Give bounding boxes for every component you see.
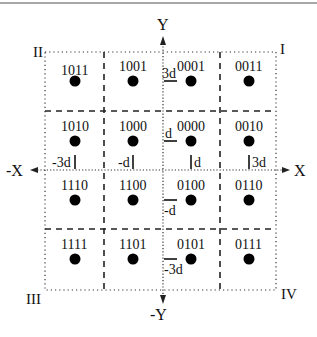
point-1000 xyxy=(128,136,139,147)
point-1110 xyxy=(70,195,81,206)
decision-boundaries xyxy=(45,52,276,290)
point-label: 1001 xyxy=(119,59,147,74)
y-tick-label-d: d xyxy=(165,126,172,141)
point-0111 xyxy=(244,254,255,265)
point-1010 xyxy=(70,136,81,147)
y-arrow-icon xyxy=(160,36,166,45)
point-0110 xyxy=(244,195,255,206)
point-0011 xyxy=(244,76,255,87)
point-label: 0111 xyxy=(235,237,262,252)
quadrant-label-ii: II xyxy=(33,44,43,60)
point-label: 0011 xyxy=(235,59,262,74)
x-tick-label-3d: 3d xyxy=(252,155,266,170)
point-0000 xyxy=(186,136,197,147)
y-tick-label-neg3d: -3d xyxy=(164,262,183,277)
quadrant-label-iii: III xyxy=(26,291,41,307)
point-label: 1101 xyxy=(119,237,146,252)
y-tick-label-3d: 3d xyxy=(162,66,176,81)
point-label: 0000 xyxy=(177,119,205,134)
x-tick-label-neg3d: -3d xyxy=(52,155,71,170)
quadrant-label-i: I xyxy=(280,41,285,57)
point-labels: 1011 1001 0001 0011 1010 1000 0000 0010 … xyxy=(61,59,263,252)
outer-boundary xyxy=(45,52,276,290)
x-arrow-icon xyxy=(282,167,290,173)
point-1101 xyxy=(128,254,139,265)
y-axis-label: Y xyxy=(157,16,169,33)
point-label: 0010 xyxy=(235,119,263,134)
neg-x-axis-label: -X xyxy=(6,162,23,179)
point-label: 0001 xyxy=(177,59,205,74)
point-label: 1011 xyxy=(61,63,88,78)
point-1001 xyxy=(128,76,139,87)
point-0001 xyxy=(186,76,197,87)
x-axis-label: X xyxy=(294,162,306,179)
point-label: 0101 xyxy=(177,237,205,252)
neg-y-arrow-icon xyxy=(160,295,166,304)
point-0010 xyxy=(244,136,255,147)
point-label: 1111 xyxy=(61,237,87,252)
point-label: 0100 xyxy=(177,178,205,193)
point-0101 xyxy=(186,254,197,265)
quadrant-label-iv: IV xyxy=(281,286,297,302)
point-0100 xyxy=(186,195,197,206)
point-1111 xyxy=(70,254,81,265)
neg-x-arrow-icon xyxy=(30,167,38,173)
point-label: 1100 xyxy=(119,178,146,193)
x-tick-label-d: d xyxy=(194,155,201,170)
point-label: 1000 xyxy=(119,119,147,134)
x-ticks xyxy=(75,155,249,169)
point-label: 1110 xyxy=(61,178,88,193)
point-label: 0110 xyxy=(235,178,262,193)
constellation-diagram: X -X Y -Y II I III IV -3d -d d 3d 3d d -… xyxy=(0,0,317,337)
point-1100 xyxy=(128,195,139,206)
point-label: 1010 xyxy=(61,119,89,134)
x-tick-label-negd: -d xyxy=(118,155,130,170)
y-tick-label-negd: -d xyxy=(164,203,176,218)
neg-y-axis-label: -Y xyxy=(150,306,167,323)
